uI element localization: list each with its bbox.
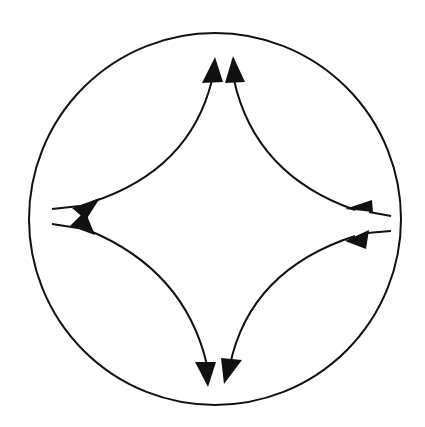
edge-top-right (234, 80, 355, 210)
diagram-canvas (0, 0, 425, 427)
edge-left-top (92, 80, 212, 202)
edge-bottom-left (88, 230, 207, 365)
edge-right-bottom (230, 236, 355, 365)
arrowhead-top-right-icon (225, 56, 245, 83)
arrowhead-top-left-icon (202, 57, 223, 83)
arrowhead-left-lower-icon (70, 211, 95, 235)
astroid-arrow-diagram (0, 0, 425, 427)
tail-right-lower (367, 231, 391, 233)
arrowhead-bottom-right-icon (221, 358, 242, 384)
arrowhead-bottom-left-icon (195, 362, 216, 387)
arrowhead-right-upper-icon (345, 200, 373, 212)
arrowhead-right-lower-icon (345, 230, 369, 249)
tail-right-upper (369, 212, 391, 216)
